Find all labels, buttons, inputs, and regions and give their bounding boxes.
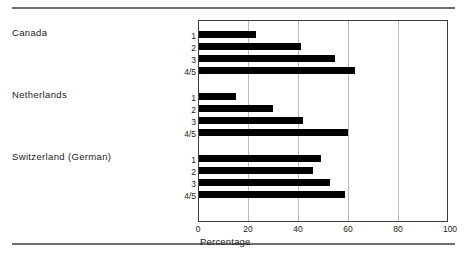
sub-label-canada-3: 3 [156,56,196,65]
sub-label-canada-1: 1 [156,32,196,41]
sub-label-switzerland-4-5: 4/5 [156,192,196,201]
bar-canada-4-5 [199,67,355,74]
xtick-80: 80 [393,224,402,234]
bar-netherlands-2 [199,105,273,112]
sub-label-netherlands-3: 3 [156,118,196,127]
bar-canada-2 [199,43,301,50]
bar-netherlands-3 [199,117,303,124]
group-label-canada: Canada [12,27,47,38]
bar-switzerland-4-5 [199,191,345,198]
gridline-80 [398,21,399,221]
sub-label-switzerland-1: 1 [156,156,196,165]
bar-canada-3 [199,55,335,62]
chart-page: Canada Netherlands Switzerland (German) … [0,0,468,258]
sub-label-switzerland-2: 2 [156,168,196,177]
xtick-60: 60 [343,224,352,234]
group-label-switzerland: Switzerland (German) [12,151,111,162]
sub-label-canada-4-5: 4/5 [156,68,196,77]
bar-netherlands-1 [199,93,236,100]
bar-switzerland-1 [199,155,321,162]
sub-label-switzerland-3: 3 [156,180,196,189]
group-label-netherlands: Netherlands [12,89,67,100]
xtick-40: 40 [293,224,302,234]
xtick-0: 0 [196,224,201,234]
sub-label-netherlands-1: 1 [156,94,196,103]
sub-label-netherlands-2: 2 [156,106,196,115]
x-axis-title: Percentage [200,236,251,247]
top-rule [12,7,455,9]
bar-canada-1 [199,31,256,38]
xtick-20: 20 [243,224,252,234]
gridline-60 [348,21,349,221]
bar-netherlands-4-5 [199,129,348,136]
xtick-100: 100 [443,224,457,234]
sub-label-canada-2: 2 [156,44,196,53]
plot-area [198,20,448,222]
sub-label-netherlands-4-5: 4/5 [156,130,196,139]
bar-switzerland-3 [199,179,330,186]
bar-switzerland-2 [199,167,313,174]
